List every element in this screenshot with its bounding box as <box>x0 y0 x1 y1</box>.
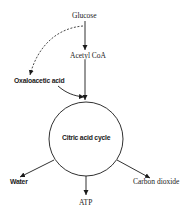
label-water: Water <box>10 178 28 186</box>
label-citric-acid-cycle: Citric acid cycle <box>62 134 110 142</box>
arrow-cycle-to-water <box>20 160 54 177</box>
label-oxaloacetic-acid: Oxaloacetic acid <box>14 77 64 85</box>
label-glucose: Glucose <box>72 12 97 20</box>
arrow-oxaloacetic-to-cycle <box>58 86 84 97</box>
label-carbon-dioxide: Carbon dioxide <box>133 178 179 186</box>
arrow-cycle-to-carbon-dioxide <box>117 160 150 178</box>
label-atp: ATP <box>79 199 92 207</box>
label-acetyl-coa: Acetyl CoA <box>70 52 106 60</box>
